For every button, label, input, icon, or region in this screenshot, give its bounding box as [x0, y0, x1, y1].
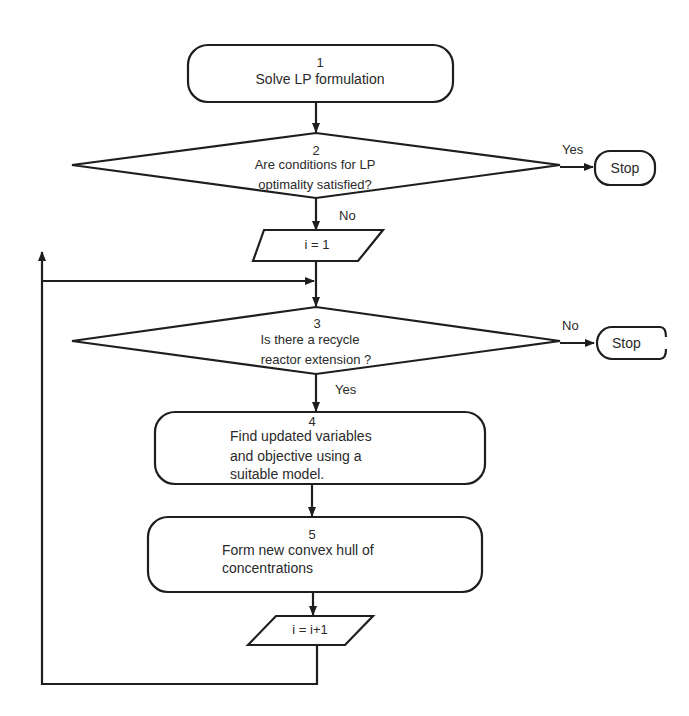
- node-3-number: 3: [313, 316, 320, 332]
- node-2-text-line2: optimality satisfied?: [258, 177, 371, 193]
- edge-label-yes-2: Yes: [335, 382, 356, 398]
- stop-1-label: Stop: [611, 160, 640, 176]
- node-4-text-line3: suitable model.: [230, 466, 324, 482]
- edge-label-yes-1: Yes: [562, 142, 583, 158]
- node-4-text-line2: and objective using a: [230, 448, 362, 464]
- node-1-number: 1: [316, 55, 323, 71]
- node-5-text-line1: Form new convex hull of: [222, 542, 374, 558]
- edge-label-no-1: No: [339, 208, 356, 224]
- init-label: i = 1: [305, 237, 330, 253]
- node-3-text-line2: reactor extension ?: [261, 352, 372, 368]
- edge-label-no-2: No: [562, 318, 579, 334]
- stop-2-label: Stop: [612, 335, 641, 351]
- node-5-number: 5: [308, 527, 315, 543]
- node-5-text-line2: concentrations: [222, 560, 313, 576]
- node-3-text-line1: Is there a recycle: [261, 332, 360, 348]
- node-4-text-line1: Find updated variables: [230, 428, 372, 444]
- node-1-text: Solve LP formulation: [256, 71, 385, 87]
- increment-label: i = i+1: [292, 622, 327, 638]
- node-2-text-line1: Are conditions for LP: [255, 157, 376, 173]
